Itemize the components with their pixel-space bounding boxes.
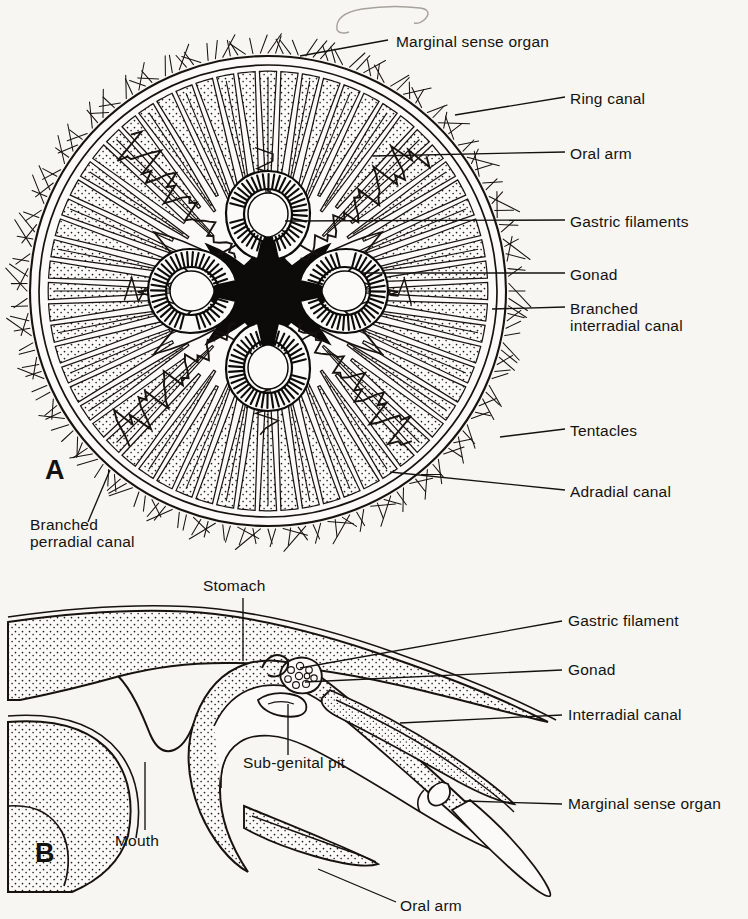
label-b-sub_genital_pit: Sub-genital pit (243, 754, 345, 771)
panel-letter-b: B (35, 838, 55, 869)
label-a-ring_canal: Ring canal (570, 90, 645, 107)
label-a-oral_arm: Oral arm (570, 145, 632, 162)
label-b-oral_arm: Oral arm (400, 897, 462, 914)
gonad (148, 249, 236, 333)
gonad (300, 249, 388, 333)
label-a-branched_perradial_canal: Branchedperradial canal (30, 516, 200, 550)
label-a-gastric_filaments: Gastric filaments (570, 213, 689, 230)
label-b-gastric_filament: Gastric filament (568, 612, 679, 629)
gonad-cluster-b (280, 658, 321, 694)
label-b-interradial_canal: Interradial canal (568, 706, 682, 723)
label-a-branched_interradial_canal: Branchedinterradial canal (570, 300, 740, 334)
gonad (226, 171, 310, 259)
label-b-marginal_sense_organ: Marginal sense organ (568, 795, 721, 812)
label-a-tentacles: Tentacles (570, 422, 637, 439)
label-b-mouth: Mouth (115, 832, 159, 849)
anatomy-plate (0, 0, 748, 919)
label-b-stomach: Stomach (203, 577, 266, 594)
panel-letter-a: A (45, 455, 65, 486)
gonad (226, 323, 310, 411)
label-b-gonad: Gonad (568, 661, 616, 678)
label-a-gonad: Gonad (570, 266, 618, 283)
label-a-adradial_canal: Adradial canal (570, 483, 671, 500)
label-a-marginal_sense_organ: Marginal sense organ (396, 33, 549, 50)
